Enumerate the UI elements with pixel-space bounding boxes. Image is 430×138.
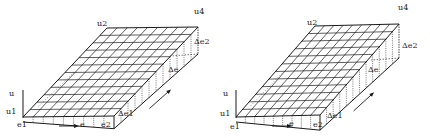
u4-label: u4: [194, 8, 204, 16]
u1-label: u1: [220, 110, 230, 118]
delta-e2-label: Δe2: [402, 42, 418, 50]
e2-label: e2: [101, 121, 111, 129]
u-axis-label: u: [9, 90, 14, 98]
u4-label: u4: [398, 4, 408, 12]
delta-e-label: Δe: [368, 66, 379, 74]
e1-label: e1: [230, 123, 240, 131]
figure-right: u u1 u2 u4 e1 e e2 Δe1 Δe2 Δe: [215, 0, 430, 138]
u-axis-label: u: [223, 90, 228, 98]
e-axis-label: e: [80, 121, 85, 129]
delta-e1-label: Δe1: [327, 112, 343, 120]
e-axis-label: e: [289, 120, 294, 128]
u2-label: u2: [307, 19, 317, 27]
e1-label: e1: [17, 121, 27, 129]
u2-label: u2: [97, 20, 107, 28]
delta-e1-label: Δe1: [118, 110, 134, 118]
delta-e2-label: Δe2: [194, 38, 210, 46]
e2-label: e2: [313, 121, 323, 129]
slab-grid-diagram: [215, 0, 430, 138]
figure-left: u u1 u2 u4 e1 e e2 Δe1 Δe2 Δe: [0, 0, 215, 138]
u1-label: u1: [6, 108, 16, 116]
delta-e-label: Δe: [168, 66, 179, 74]
slab-grid-diagram: [0, 0, 215, 138]
